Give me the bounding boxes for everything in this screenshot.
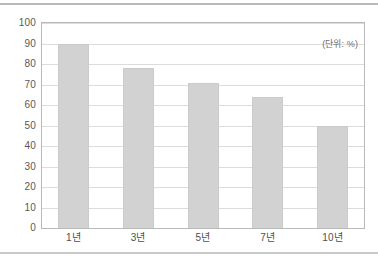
x-tick-label-1: 3년 xyxy=(106,232,171,244)
x-tick-label-4: 10년 xyxy=(300,232,365,244)
bar[interactable] xyxy=(317,126,348,229)
y-tick-label-10: 10 xyxy=(0,203,36,213)
y-tick-label-70: 70 xyxy=(0,80,36,90)
x-tick-label-0: 1년 xyxy=(41,232,106,244)
y-tick-label-80: 80 xyxy=(0,59,36,69)
bar[interactable] xyxy=(123,68,154,228)
y-tick-label-0: 0 xyxy=(0,223,36,233)
unit-annotation: (단위: %) xyxy=(322,37,358,50)
bar[interactable] xyxy=(58,44,89,229)
bar[interactable] xyxy=(252,97,283,228)
y-tick-label-90: 90 xyxy=(0,39,36,49)
gridline-90 xyxy=(42,44,364,45)
y-tick-label-100: 100 xyxy=(0,18,36,28)
bar[interactable] xyxy=(188,83,219,228)
gridline-0 xyxy=(42,228,364,229)
y-tick-label-60: 60 xyxy=(0,100,36,110)
y-tick-label-30: 30 xyxy=(0,162,36,172)
y-tick-label-40: 40 xyxy=(0,141,36,151)
gridline-80 xyxy=(42,64,364,65)
bar-chart-figure: (단위: %) 1009080706050403020100 1년3년5년7년1… xyxy=(0,8,378,248)
y-axis-tick-labels: 1009080706050403020100 xyxy=(0,22,36,229)
y-tick-label-50: 50 xyxy=(0,121,36,131)
page-rule-bottom xyxy=(0,252,378,254)
x-tick-label-3: 7년 xyxy=(235,232,300,244)
x-tick-label-2: 5년 xyxy=(171,232,236,244)
y-tick-label-20: 20 xyxy=(0,182,36,192)
page-rule-top xyxy=(0,3,378,5)
gridline-100 xyxy=(42,23,364,24)
x-axis-tick-labels: 1년3년5년7년10년 xyxy=(41,232,365,248)
